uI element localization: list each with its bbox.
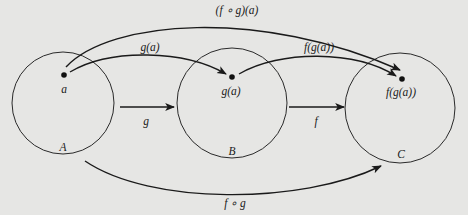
- label-composition-of-a: (f ∘ g)(a): [216, 4, 259, 17]
- composition-of-a-curve: [66, 28, 400, 70]
- point-g-of-a: [229, 74, 235, 80]
- set-A-circle: [12, 52, 114, 154]
- point-a: [61, 72, 67, 78]
- label-g-arrow: g: [143, 115, 149, 128]
- label-set-A: A: [58, 141, 67, 153]
- label-set-C: C: [397, 148, 405, 160]
- g-of-a-curve: [70, 55, 226, 74]
- label-g-of-a-curve: g(a): [140, 41, 159, 54]
- label-set-B: B: [228, 145, 235, 157]
- label-f-arrow: f: [314, 115, 319, 128]
- point-f-of-g-of-a: [399, 76, 405, 82]
- label-element-a: a: [61, 83, 67, 95]
- label-composition: f ∘ g: [224, 197, 246, 210]
- composition-curve-head: [85, 161, 381, 195]
- label-element-g-of-a: g(a): [221, 85, 240, 98]
- diagram-page: (f ∘ g)(a) g(a) f(g(a)) a g(a) f(g(a)) g…: [0, 0, 468, 215]
- set-B-circle: [177, 48, 287, 158]
- label-f-of-g-of-a-curve: f(g(a)): [304, 41, 334, 54]
- label-element-f-of-g-of-a: f(g(a)): [386, 86, 416, 99]
- function-composition-diagram: (f ∘ g)(a) g(a) f(g(a)) a g(a) f(g(a)) g…: [0, 0, 468, 215]
